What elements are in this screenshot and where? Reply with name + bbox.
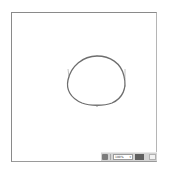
zoom-value: 100% xyxy=(115,155,124,159)
anchor-point-right[interactable] xyxy=(124,85,125,86)
chevron-down-icon: ▾ xyxy=(129,155,131,159)
anchor-point-top[interactable] xyxy=(96,55,98,57)
closed-curve-shape[interactable] xyxy=(68,56,125,105)
mode-button[interactable] xyxy=(135,154,144,160)
drawing-overlay xyxy=(0,0,171,173)
anchor-point-bottom[interactable] xyxy=(96,105,98,107)
status-bar: 100% ▾ xyxy=(101,152,157,161)
status-divider xyxy=(110,154,111,160)
zoom-dropdown[interactable]: 100% ▾ xyxy=(113,154,133,160)
page-icon[interactable] xyxy=(102,154,108,160)
view-icon[interactable] xyxy=(149,154,156,160)
